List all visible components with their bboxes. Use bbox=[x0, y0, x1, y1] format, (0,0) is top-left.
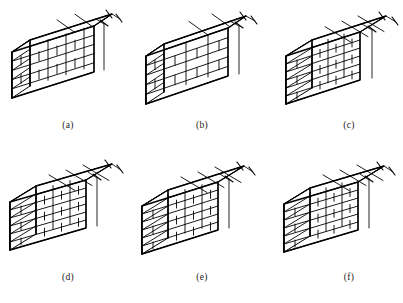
figure-e: (e) bbox=[130, 152, 264, 303]
figure-caption-e: (e) bbox=[196, 273, 207, 283]
brick-wall-diagram-f bbox=[278, 152, 403, 277]
figure-b: (b) bbox=[130, 0, 264, 152]
brick-wall-diagram-e bbox=[134, 152, 264, 277]
wall-body-b bbox=[146, 16, 246, 104]
figure-a: (a) bbox=[0, 0, 130, 152]
figure-caption-d: (d) bbox=[62, 273, 74, 283]
figure-caption-c: (c) bbox=[343, 121, 354, 131]
brick-wall-diagram-d bbox=[0, 152, 130, 277]
brick-wall-diagram-c bbox=[278, 0, 403, 125]
figure-caption-b: (b) bbox=[196, 121, 208, 131]
figure-c: (c) bbox=[264, 0, 403, 152]
figure-caption-a: (a) bbox=[62, 121, 73, 131]
figure-caption-f: (f) bbox=[344, 273, 354, 283]
figure-f: (f) bbox=[264, 152, 403, 303]
brick-wall-diagram-b bbox=[134, 0, 264, 125]
figure-d: (d) bbox=[0, 152, 130, 303]
brick-wall-diagram-a bbox=[0, 0, 130, 125]
